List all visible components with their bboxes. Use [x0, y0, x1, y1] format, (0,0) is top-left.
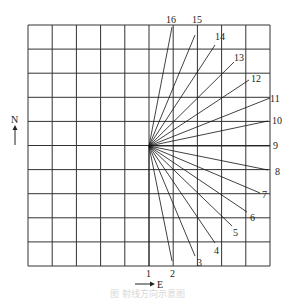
ray-label: 8 — [275, 166, 280, 177]
ray-line — [149, 146, 232, 226]
ray-label: 3 — [197, 257, 202, 268]
ray-label: 6 — [250, 212, 255, 223]
ray-grid-diagram: 12345678910111213141516 — [0, 0, 295, 304]
ray-label: 5 — [233, 227, 238, 238]
figure-caption: 图 射线方向示意图 — [0, 287, 295, 300]
ray-line — [149, 35, 195, 146]
ray-label: 1 — [146, 268, 151, 279]
ray-label: 4 — [214, 245, 219, 256]
ray-line — [149, 98, 270, 146]
ray-line — [149, 80, 249, 146]
ray-label: 14 — [215, 31, 225, 42]
ray-label: 2 — [170, 268, 175, 279]
north-arrowhead-icon — [13, 125, 18, 130]
ray-label: 16 — [166, 14, 176, 25]
ray-label: 13 — [234, 52, 244, 63]
ray-label: 12 — [251, 73, 261, 84]
ray-label: 9 — [273, 140, 278, 151]
ray-label: 7 — [262, 189, 267, 200]
north-label: N — [11, 114, 18, 125]
ray-label: 15 — [192, 14, 202, 25]
ray-label: 10 — [272, 115, 282, 126]
ray-line — [149, 121, 268, 146]
ray-label: 11 — [270, 93, 280, 104]
east-arrowhead-icon — [150, 282, 155, 287]
